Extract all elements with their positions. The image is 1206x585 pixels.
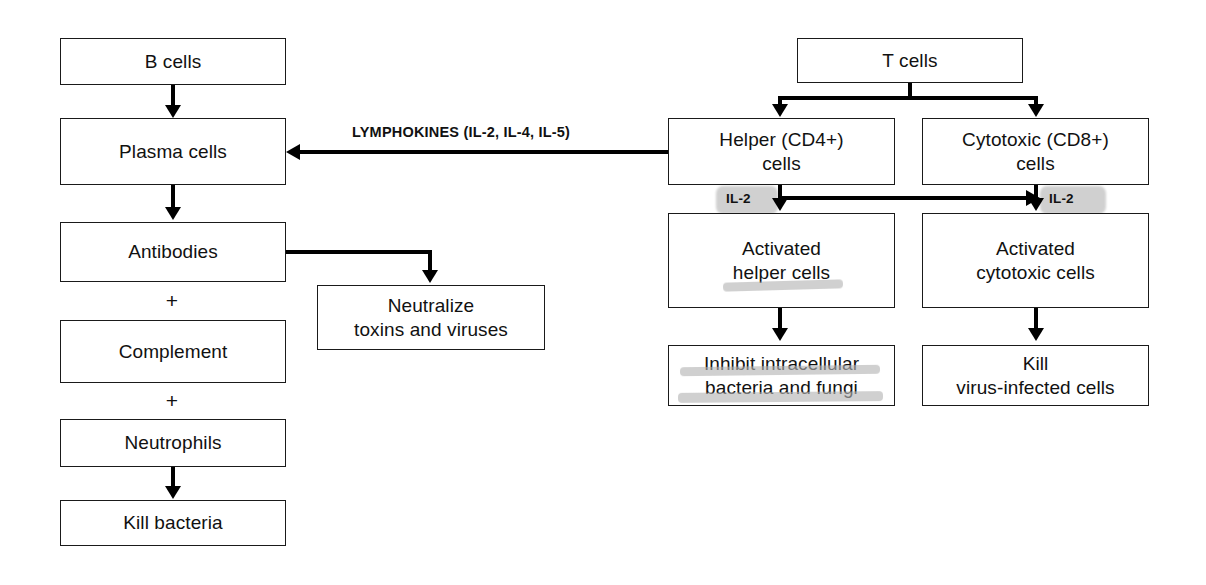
node-neutrophils-label: Neutrophils	[118, 431, 227, 454]
node-kill-virus-infected-cells: Kill virus-infected cells	[922, 345, 1149, 406]
connector-bcells-to-plasma	[171, 85, 175, 107]
node-activated-helper-cells: Activated helper cells	[668, 213, 895, 308]
arrowhead-neutrophils-to-kill	[165, 486, 181, 499]
connector-lymphokines	[300, 150, 668, 154]
node-complement: Complement	[60, 320, 286, 383]
connector-activated-cytotoxic-to-kill	[1034, 308, 1038, 330]
arrowhead-bcells-to-plasma	[165, 105, 181, 118]
connector-antibodies-to-neutralize-horizontal	[286, 250, 432, 254]
connector-activated-helper-to-inhibit	[778, 308, 782, 330]
arrowhead-plasma-to-antibodies	[165, 207, 181, 220]
connector-plasma-to-antibodies	[171, 185, 175, 209]
plus-complement-neutrophils: +	[160, 390, 184, 411]
arrowhead-helper-to-activated-helper	[772, 198, 788, 211]
connector-il2-helper-to-cytotoxic	[782, 196, 1030, 200]
node-antibodies: Antibodies	[60, 222, 286, 282]
node-neutrophils: Neutrophils	[60, 419, 286, 467]
arrowhead-cytotoxic-to-activated-cytotoxic	[1028, 198, 1044, 211]
connector-antibodies-to-neutralize-vertical	[428, 250, 432, 272]
immune-response-flowchart: B cells Plasma cells Antibodies + Comple…	[0, 0, 1206, 585]
edge-label-il2-helper: IL-2	[726, 191, 751, 206]
node-t-cells: T cells	[797, 38, 1023, 83]
arrowhead-tcells-to-cytotoxic	[1028, 104, 1044, 117]
node-helper-cd4-cells-label: Helper (CD4+) cells	[713, 128, 849, 174]
node-activated-cytotoxic-cells-label: Activated cytotoxic cells	[970, 237, 1101, 283]
node-plasma-cells: Plasma cells	[60, 118, 286, 185]
connector-tcells-branch-bar	[778, 96, 1038, 100]
node-kill-virus-infected-cells-label: Kill virus-infected cells	[950, 352, 1120, 398]
arrowhead-lymphokines	[286, 144, 300, 160]
node-helper-cd4-cells: Helper (CD4+) cells	[668, 118, 895, 185]
node-activated-helper-cells-label: Activated helper cells	[727, 237, 836, 283]
node-neutralize-toxins: Neutralize toxins and viruses	[317, 285, 545, 350]
arrowhead-activated-cytotoxic-to-kill	[1028, 328, 1044, 341]
edge-label-il2-cytotoxic: IL-2	[1049, 191, 1074, 206]
node-cytotoxic-cd8-cells-label: Cytotoxic (CD8+) cells	[956, 128, 1115, 174]
node-neutralize-toxins-label: Neutralize toxins and viruses	[348, 294, 514, 340]
node-antibodies-label: Antibodies	[122, 240, 224, 263]
node-activated-cytotoxic-cells: Activated cytotoxic cells	[922, 213, 1149, 308]
highlight-mark-inhibit-line2	[678, 391, 883, 403]
arrowhead-activated-helper-to-inhibit	[772, 328, 788, 341]
arrowhead-antibodies-to-neutralize	[422, 270, 438, 283]
node-plasma-cells-label: Plasma cells	[113, 140, 233, 163]
edge-label-lymphokines: LYMPHOKINES (IL-2, IL-4, IL-5)	[352, 124, 570, 140]
node-t-cells-label: T cells	[876, 49, 943, 72]
node-complement-label: Complement	[113, 340, 234, 363]
node-b-cells-label: B cells	[139, 50, 208, 73]
connector-neutrophils-to-kill	[171, 467, 175, 487]
node-b-cells: B cells	[60, 38, 286, 85]
node-kill-bacteria: Kill bacteria	[60, 500, 286, 546]
node-kill-bacteria-label: Kill bacteria	[117, 511, 229, 534]
node-cytotoxic-cd8-cells: Cytotoxic (CD8+) cells	[922, 118, 1149, 185]
plus-antibodies-complement: +	[160, 290, 184, 311]
arrowhead-tcells-to-helper	[772, 104, 788, 117]
